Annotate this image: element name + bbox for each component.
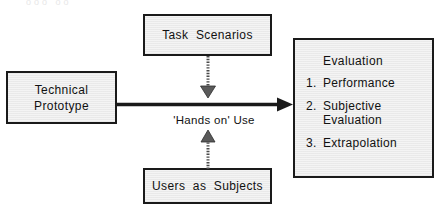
list-item-label: Extrapolation <box>323 136 397 150</box>
arrowhead-up-icon <box>201 130 215 142</box>
evaluation-item-list: 1. Performance 2. Subjective Evaluation … <box>295 76 432 159</box>
node-technical-prototype-label: Technical Prototype <box>8 82 115 114</box>
node-users-as-subjects-label: Users as Subjects <box>145 179 270 194</box>
node-evaluation-heading: Evaluation <box>323 54 432 68</box>
scan-artifact: ooo oo <box>26 0 78 5</box>
arrowhead-right-icon <box>277 98 293 112</box>
list-item-number: 1. <box>306 76 323 90</box>
connector-task-scenarios-to-link-arrow <box>200 56 216 98</box>
node-evaluation[interactable]: Evaluation 1. Performance 2. Subjective … <box>293 38 434 178</box>
list-item-number: 2. <box>306 99 323 127</box>
list-item: 2. Subjective Evaluation <box>295 99 432 127</box>
node-task-scenarios[interactable]: Task Scenarios <box>143 14 272 56</box>
list-item: 3. Extrapolation <box>295 136 432 150</box>
node-users-as-subjects[interactable]: Users as Subjects <box>143 168 272 204</box>
list-item: 1. Performance <box>295 76 432 90</box>
connector-label-hands-on-use: 'Hands on' Use <box>153 114 275 126</box>
list-item-number: 3. <box>306 136 323 150</box>
arrowhead-up-outline-icon <box>201 130 215 142</box>
list-item-label: Subjective Evaluation <box>323 99 382 127</box>
diagram-canvas: ooo oo Task Scenarios Technical Prototyp… <box>0 0 439 209</box>
connector-prototype-to-evaluation-arrow <box>117 97 293 112</box>
arrowhead-down-icon <box>201 86 216 98</box>
node-task-scenarios-label: Task Scenarios <box>145 28 270 43</box>
node-technical-prototype[interactable]: Technical Prototype <box>6 71 117 124</box>
arrowhead-down-outline-icon <box>201 86 216 98</box>
list-item-label: Performance <box>323 76 395 90</box>
connector-users-to-link-arrow <box>200 130 216 169</box>
